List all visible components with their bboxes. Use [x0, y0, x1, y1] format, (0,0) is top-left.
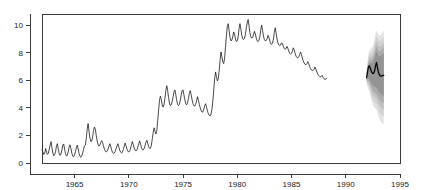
x-tick-label-1995: 1995	[391, 180, 409, 189]
x-axis-tick-labels: 1965197019751980198519901995	[66, 180, 410, 189]
forecast-fan-bands	[367, 31, 384, 125]
plot-frame	[42, 14, 400, 163]
y-tick-label-4: 4	[19, 104, 24, 113]
forecast-fan-chart: 1965197019751980198519901995 0246810	[0, 0, 427, 190]
chart-canvas: 1965197019751980198519901995 0246810	[0, 0, 427, 190]
observed-series-line	[42, 20, 327, 158]
y-tick-label-8: 8	[19, 49, 24, 58]
y-tick-label-6: 6	[19, 76, 24, 85]
y-tick-label-0: 0	[19, 159, 24, 168]
x-tick-label-1985: 1985	[283, 180, 301, 189]
y-tick-label-10: 10	[14, 21, 23, 30]
x-tick-label-1980: 1980	[228, 180, 246, 189]
y-tick-label-2: 2	[19, 131, 24, 140]
y-axis-tick-labels: 0246810	[14, 21, 23, 168]
x-tick-label-1975: 1975	[174, 180, 192, 189]
x-tick-label-1970: 1970	[120, 180, 138, 189]
x-tick-label-1965: 1965	[66, 180, 84, 189]
x-tick-label-1990: 1990	[337, 180, 355, 189]
